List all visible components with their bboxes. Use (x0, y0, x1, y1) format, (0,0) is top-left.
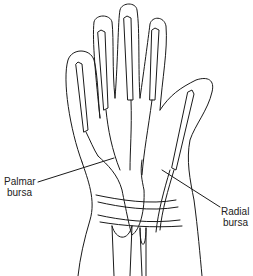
radial-label-line2: bursa (221, 217, 249, 228)
hand-outline (66, 4, 213, 276)
radial-leader (162, 170, 220, 207)
radial-bursa-label: Radial bursa (221, 206, 249, 228)
palmar-leader (38, 158, 114, 182)
hand-diagram (0, 0, 253, 276)
palmar-bursa-label: Palmar bursa (4, 176, 36, 198)
tendons (86, 100, 174, 232)
radial-label-line1: Radial (221, 206, 249, 217)
palmar-label-line2: bursa (4, 187, 36, 198)
flexor-retinaculum (96, 195, 182, 227)
palmar-label-line1: Palmar (4, 176, 36, 187)
forearm-tendons (112, 226, 146, 276)
